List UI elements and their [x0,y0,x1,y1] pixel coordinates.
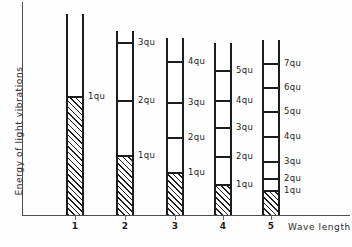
x-axis-label: Wave length [288,222,351,232]
level-tick [116,155,134,157]
level-tick-label: 5qu [284,106,301,116]
level-tick [262,190,280,192]
level-tick-label: 3qu [138,37,155,47]
level-tick [214,127,232,129]
level-tick [166,137,184,139]
x-axis-category-label: 4 [208,221,238,231]
level-tick-label: 7qu [284,58,301,68]
level-tick-label: 2qu [138,95,155,105]
x-axis-tick [125,216,126,220]
tube-column [262,40,280,215]
x-axis-tick [271,216,272,220]
quantum-fill [68,96,82,215]
level-tick [262,63,280,65]
level-tick-label: 4qu [188,56,205,66]
level-tick-label: 2qu [284,173,301,183]
level-tick [116,42,134,44]
level-tick [166,172,184,174]
x-axis-category-label: 2 [110,221,140,231]
y-axis-label: Energy of light vibrations [14,46,24,216]
level-tick-label: 4qu [284,131,301,141]
x-axis-category-label: 5 [256,221,286,231]
quantum-fill [216,184,230,215]
level-tick-label: 1qu [88,91,105,101]
level-tick-label: 3qu [188,97,205,107]
level-tick [166,102,184,104]
level-tick [262,136,280,138]
level-tick [262,111,280,113]
x-axis-tick [175,216,176,220]
x-axis-tick [223,216,224,220]
level-tick [214,184,232,186]
level-tick [262,87,280,89]
quantum-fill [168,172,182,215]
level-tick-label: 1qu [284,185,301,195]
x-axis-tick [75,216,76,220]
level-tick [116,100,134,102]
level-tick [214,70,232,72]
level-tick-label: 1qu [188,167,205,177]
x-axis-line [22,215,350,216]
level-tick [214,100,232,102]
level-tick-label: 2qu [236,151,253,161]
level-tick [262,161,280,163]
level-tick-label: 2qu [188,132,205,142]
level-tick-label: 4qu [236,95,253,105]
level-tick-label: 3qu [236,122,253,132]
level-tick [66,96,84,98]
quantum-fill [264,190,278,215]
level-tick-label: 1qu [236,179,253,189]
level-tick-label: 5qu [236,65,253,75]
level-tick-label: 1qu [138,150,155,160]
level-tick [262,178,280,180]
level-tick [166,61,184,63]
x-axis-category-label: 1 [60,221,90,231]
level-tick-label: 6qu [284,82,301,92]
level-tick [214,156,232,158]
energy-wavelength-diagram: Energy of light vibrations Wave length 1… [0,0,352,247]
level-tick-label: 3qu [284,156,301,166]
quantum-fill [118,155,132,215]
x-axis-category-label: 3 [160,221,190,231]
